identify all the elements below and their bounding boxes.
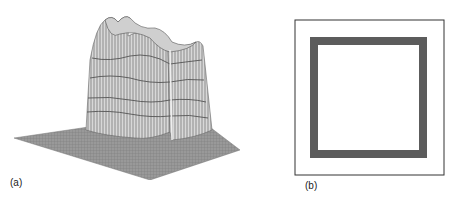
panel-b-label: (b): [305, 180, 317, 191]
panel-a-surface-plot: (a): [0, 0, 240, 180]
surface-plot-graphic: [0, 0, 240, 180]
panel-b-ring-map: (b): [290, 0, 456, 203]
ring-map-graphic: [290, 0, 456, 180]
panel-a-label: (a): [10, 177, 22, 188]
